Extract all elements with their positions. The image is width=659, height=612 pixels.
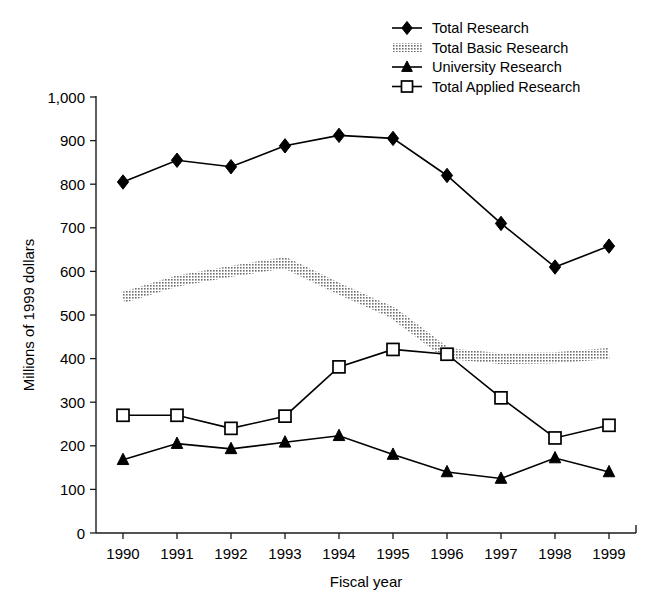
y-tick-label: 900 [60,132,85,149]
data-point-square [279,410,291,422]
legend-label: Total Research [432,20,529,36]
x-tick-label: 1996 [430,545,463,562]
x-axis-title: Fiscal year [330,573,403,590]
data-point-square [441,348,453,360]
data-point-square [117,409,129,421]
y-tick-label: 600 [60,263,85,280]
legend-label: Total Basic Research [432,40,568,56]
y-tick-label: 100 [60,481,85,498]
x-tick-label: 1999 [592,545,625,562]
data-point-square [333,361,345,373]
x-tick-label: 1993 [268,545,301,562]
legend-label: Total Applied Research [432,79,580,95]
data-point-square [225,422,237,434]
y-tick-label: 1,000 [47,89,85,106]
y-tick-label: 800 [60,176,85,193]
x-tick-label: 1990 [106,545,139,562]
y-axis-title: Millions of 1999 dollars [20,239,37,392]
legend-swatch-band [392,43,422,52]
x-tick-label: 1994 [322,545,355,562]
y-tick-label: 500 [60,307,85,324]
x-tick-label: 1991 [160,545,193,562]
x-tick-label: 1998 [538,545,571,562]
data-point-square [387,343,399,355]
chart-container: Total ResearchTotal Basic ResearchUniver… [0,0,659,612]
data-point-square [549,432,561,444]
x-tick-label: 1992 [214,545,247,562]
data-point-square [401,81,412,92]
y-tick-label: 300 [60,394,85,411]
line-chart: Total ResearchTotal Basic ResearchUniver… [0,0,659,612]
data-point-square [171,409,183,421]
y-tick-label: 0 [77,525,85,542]
x-tick-label: 1997 [484,545,517,562]
y-tick-label: 200 [60,437,85,454]
y-tick-label: 400 [60,350,85,367]
data-point-square [603,419,615,431]
x-tick-label: 1995 [376,545,409,562]
legend-label: University Research [432,59,562,75]
y-tick-label: 700 [60,219,85,236]
data-point-square [495,392,507,404]
